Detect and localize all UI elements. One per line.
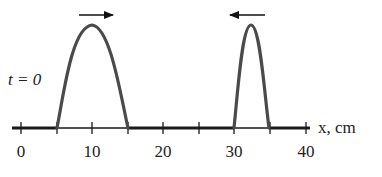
tick-label-0: 0 xyxy=(17,142,26,161)
tick-labels: 0 10 20 30 40 xyxy=(17,142,315,161)
tick-label-30: 30 xyxy=(226,142,243,161)
tick-label-10: 10 xyxy=(84,142,101,161)
time-label: t = 0 xyxy=(8,70,42,89)
right-pulse-curve xyxy=(234,25,269,128)
wave-pulses-diagram: t = 0 x, cm 0 10 20 30 40 xyxy=(0,0,382,177)
tick-label-20: 20 xyxy=(155,142,172,161)
axis-label: x, cm xyxy=(318,118,356,137)
left-pulse-curve xyxy=(57,25,128,128)
tick-label-40: 40 xyxy=(298,142,315,161)
